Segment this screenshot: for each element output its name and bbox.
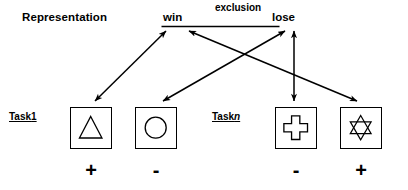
task-label-1-word: Task [9,111,31,122]
star-of-david-icon [341,108,380,147]
diagram-canvas: Representation exclusion win lose Task1 … [0,0,408,190]
page-title: Representation [22,12,107,24]
valence-sign-cross: - [275,160,317,180]
task-label-n-word: Task [212,111,234,122]
arrow-circle-to-lose [163,31,285,101]
valence-sign-triangle: + [70,160,112,180]
triangle-icon [71,108,110,147]
stimulus-box-circle[interactable] [135,107,177,149]
arrow-triangle-to-win [95,31,166,101]
arrow-star-to-win [189,31,357,101]
task-label-1-index: 1 [31,111,37,122]
cross-icon [276,108,315,147]
task-label-1: Task1 [9,111,37,122]
valence-sign-star: + [340,160,382,180]
circle-icon [136,108,175,147]
stimulus-box-triangle[interactable] [70,107,112,149]
valence-sign-circle: - [135,160,177,180]
task-label-n-index: n [234,111,240,122]
stimulus-box-star[interactable] [340,107,382,149]
task-label-n: Taskn [212,111,240,122]
outcome-node-lose: lose [272,12,295,24]
stimulus-box-cross[interactable] [275,107,317,149]
outcome-node-win: win [163,12,182,24]
exclusion-relation-label: exclusion [215,3,261,13]
